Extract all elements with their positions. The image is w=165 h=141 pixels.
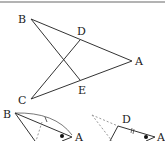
label-B: B [18, 13, 26, 26]
angle-dot-left [60, 134, 64, 138]
tick-mark-right-1 [131, 128, 132, 133]
segment-DA-right [118, 126, 155, 137]
tick-mark-left [45, 117, 47, 122]
angle-dot-right [144, 135, 148, 139]
label-A: A [134, 55, 144, 68]
label-A-right: A [156, 131, 165, 141]
dashed-line-right-2 [92, 115, 112, 141]
geometry-diagram: B D A E C B A D A [0, 0, 165, 141]
label-A-left: A [74, 131, 84, 141]
label-D-right: D [122, 113, 131, 126]
dashed-line-right-1 [92, 115, 118, 126]
dashed-segment-left [36, 122, 42, 141]
label-C: C [18, 94, 26, 107]
label-B-left: B [3, 108, 11, 121]
label-E: E [78, 84, 86, 97]
segment-A-base-left [62, 137, 72, 141]
tick-mark-right-2 [133, 129, 134, 134]
segment-D-down [110, 126, 118, 141]
label-D: D [77, 25, 86, 38]
